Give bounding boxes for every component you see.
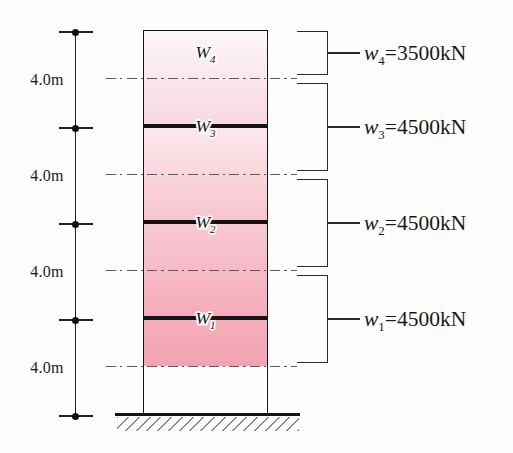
floor-subscript: 4 bbox=[210, 53, 215, 65]
dimension-node-dot bbox=[72, 29, 79, 36]
floor-label-w2: W2 bbox=[144, 211, 267, 233]
ground-hatch bbox=[117, 417, 299, 431]
weight-value: =3500kN bbox=[385, 41, 466, 65]
weight-symbol: w bbox=[364, 307, 378, 331]
building-weight-diagram: 4.0m 4.0m 4.0m 4.0m W4 W3 W2 W1 w4=3500k… bbox=[0, 0, 513, 453]
dimension-node-dot bbox=[72, 317, 79, 324]
weight-label-w4: w4=3500kN bbox=[364, 40, 512, 66]
weight-label-w2: w2=4500kN bbox=[364, 210, 512, 236]
floor-symbol: W bbox=[196, 42, 211, 62]
floor-symbol: W bbox=[196, 308, 211, 328]
floor-subscript: 3 bbox=[210, 127, 215, 139]
floor-label-w4: W4 bbox=[144, 41, 267, 63]
weight-symbol: w bbox=[364, 115, 378, 139]
midstory-dashdot-line bbox=[106, 366, 297, 367]
weight-symbol: w bbox=[364, 211, 378, 235]
floor-subscript: 2 bbox=[210, 223, 215, 235]
floor-symbol: W bbox=[196, 212, 211, 232]
floor-label-w3: W3 bbox=[144, 115, 267, 137]
story-height-label: 4.0m bbox=[24, 166, 70, 186]
leader-line-w4 bbox=[328, 52, 360, 54]
building-outline: W4 W3 W2 W1 bbox=[143, 30, 268, 415]
leader-line-w3 bbox=[328, 126, 360, 128]
weight-label-w3: w3=4500kN bbox=[364, 114, 512, 140]
weight-symbol: w bbox=[364, 41, 378, 65]
leader-line-w2 bbox=[328, 222, 360, 224]
midstory-dashdot-line bbox=[106, 78, 297, 79]
ground-line bbox=[115, 413, 300, 416]
bracket-w1 bbox=[297, 275, 328, 363]
story-height-label: 4.0m bbox=[24, 358, 70, 378]
weight-value: =4500kN bbox=[385, 211, 466, 235]
midstory-dashdot-line bbox=[106, 270, 297, 271]
dimension-node-dot bbox=[72, 413, 79, 420]
story-height-label: 4.0m bbox=[24, 262, 70, 282]
weight-value: =4500kN bbox=[385, 307, 466, 331]
bracket-w2 bbox=[297, 179, 328, 267]
midstory-dashdot-line bbox=[106, 174, 297, 175]
floor-symbol: W bbox=[196, 116, 211, 136]
weight-label-w1: w1=4500kN bbox=[364, 306, 512, 332]
floor-label-w1: W1 bbox=[144, 307, 267, 329]
bracket-w3 bbox=[297, 83, 328, 171]
story-height-label: 4.0m bbox=[24, 70, 70, 90]
leader-line-w1 bbox=[328, 318, 360, 320]
dimension-node-dot bbox=[72, 125, 79, 132]
floor-subscript: 1 bbox=[210, 319, 215, 331]
bracket-w4 bbox=[297, 31, 328, 75]
weight-value: =4500kN bbox=[385, 115, 466, 139]
dimension-node-dot bbox=[72, 221, 79, 228]
